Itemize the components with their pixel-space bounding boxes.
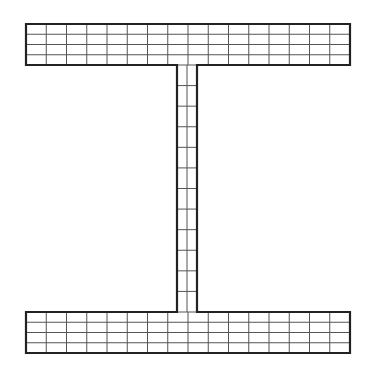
i-beam-mesh-diagram <box>0 0 367 373</box>
mesh-grid <box>26 24 350 353</box>
